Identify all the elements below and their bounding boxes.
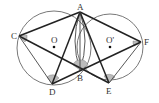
- segment-ef: [109, 42, 141, 83]
- label-c: C: [11, 31, 17, 41]
- label-o-prime: O': [106, 35, 114, 45]
- center-o-dot: [53, 46, 56, 49]
- segment-ac: [19, 12, 80, 36]
- segment-cd: [19, 36, 52, 84]
- label-d: D: [49, 87, 56, 97]
- label-b: B: [77, 73, 83, 83]
- geometry-diagram: A B C D E F O O': [0, 0, 159, 103]
- label-a: A: [77, 2, 84, 12]
- center-o-prime-dot: [109, 46, 112, 49]
- segment-ce: [19, 36, 109, 83]
- label-e: E: [106, 86, 112, 96]
- label-o: O: [51, 35, 58, 45]
- label-f: F: [144, 37, 149, 47]
